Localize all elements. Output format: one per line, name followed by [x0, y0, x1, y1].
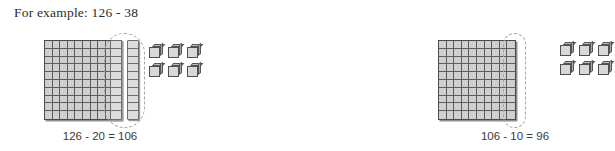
flat-unit-cell: [462, 103, 470, 111]
flat-unit-cell: [75, 103, 83, 111]
flat-unit-cell: [83, 96, 91, 104]
flat-unit-cell: [492, 88, 500, 96]
flat-unit-cell: [477, 111, 485, 119]
flat-unit-cell: [477, 103, 485, 111]
flat-unit-cell: [60, 80, 68, 88]
flat-unit-cell: [469, 111, 477, 119]
flat-unit-cell: [469, 80, 477, 88]
flat-unit-cell: [60, 57, 68, 65]
flat-unit-cell: [53, 72, 61, 80]
flat-unit-cell: [454, 103, 462, 111]
flat-unit-cell: [75, 49, 83, 57]
flat-unit-cell: [447, 111, 455, 119]
flat-unit-cell: [447, 103, 455, 111]
unit-cube: [187, 44, 201, 58]
unit-cube-face: [560, 64, 571, 75]
flat-unit-cell: [45, 64, 53, 72]
dashed-circle-column: [503, 33, 526, 128]
flat-unit-cell: [91, 57, 99, 65]
step-caption: 106 - 10 = 96: [415, 130, 615, 142]
flat-unit-cell: [485, 88, 493, 96]
unit-cube-face: [560, 45, 571, 56]
flat-unit-cell: [83, 41, 91, 49]
flat-unit-cell: [447, 49, 455, 57]
flat-unit-cell: [454, 96, 462, 104]
flat-unit-cell: [485, 57, 493, 65]
flat-unit-cell: [68, 88, 76, 96]
flat-unit-cell: [60, 49, 68, 57]
flat-unit-cell: [477, 96, 485, 104]
flat-unit-cell: [477, 88, 485, 96]
flat-unit-cell: [91, 80, 99, 88]
flat-unit-cell: [60, 88, 68, 96]
flat-unit-cell: [60, 64, 68, 72]
flat-unit-cell: [91, 49, 99, 57]
flat-unit-cell: [60, 111, 68, 119]
flat-unit-cell: [439, 103, 447, 111]
flat-unit-cell: [439, 57, 447, 65]
unit-cube: [168, 63, 182, 77]
flat-unit-cell: [83, 80, 91, 88]
flat-unit-cell: [75, 72, 83, 80]
flat-unit-cell: [60, 72, 68, 80]
flat-unit-cell: [447, 80, 455, 88]
flat-unit-cell: [60, 96, 68, 104]
flat-unit-cell: [75, 96, 83, 104]
flat-unit-cell: [75, 41, 83, 49]
flat-unit-cell: [60, 103, 68, 111]
flat-unit-cell: [75, 57, 83, 65]
flat-unit-cell: [83, 88, 91, 96]
flat-unit-cell: [447, 88, 455, 96]
flat-unit-cell: [469, 49, 477, 57]
unit-cube-side: [179, 43, 182, 56]
flat-unit-cell: [83, 57, 91, 65]
unit-cube-side: [160, 43, 163, 56]
flat-unit-cell: [477, 72, 485, 80]
unit-cube-face: [187, 66, 198, 77]
flat-unit-cell: [469, 57, 477, 65]
flat-unit-cell: [45, 111, 53, 119]
flat-unit-cell: [439, 72, 447, 80]
flat-unit-cell: [447, 72, 455, 80]
flat-unit-cell: [462, 57, 470, 65]
unit-cube-side: [590, 41, 593, 54]
flat-unit-cell: [68, 72, 76, 80]
flat-unit-cell: [454, 88, 462, 96]
flat-unit-cell: [68, 80, 76, 88]
flat-unit-cell: [53, 41, 61, 49]
flat-unit-cell: [45, 57, 53, 65]
flat-unit-cell: [45, 49, 53, 57]
flat-unit-cell: [454, 72, 462, 80]
unit-cube: [579, 42, 593, 56]
flat-unit-cell: [68, 103, 76, 111]
flat-unit-cell: [454, 41, 462, 49]
flat-unit-cell: [462, 72, 470, 80]
flat-unit-cell: [462, 111, 470, 119]
unit-cube: [149, 44, 163, 58]
flat-unit-cell: [439, 80, 447, 88]
flat-unit-cell: [439, 41, 447, 49]
flat-unit-cell: [492, 57, 500, 65]
flat-unit-cell: [91, 96, 99, 104]
unit-cube-side: [179, 62, 182, 75]
flat-unit-cell: [45, 80, 53, 88]
flat-unit-cell: [462, 49, 470, 57]
flat-unit-cell: [45, 72, 53, 80]
flat-unit-cell: [469, 88, 477, 96]
flat-unit-cell: [492, 96, 500, 104]
flat-unit-cell: [53, 80, 61, 88]
flat-unit-cell: [83, 72, 91, 80]
flat-unit-cell: [469, 72, 477, 80]
flat-unit-cell: [447, 57, 455, 65]
flat-unit-cell: [53, 64, 61, 72]
flat-unit-cell: [53, 111, 61, 119]
flat-unit-cell: [454, 80, 462, 88]
flat-unit-cell: [469, 64, 477, 72]
flat-unit-cell: [462, 96, 470, 104]
unit-cube-face: [168, 66, 179, 77]
flat-unit-cell: [91, 88, 99, 96]
flat-unit-cell: [462, 64, 470, 72]
flat-unit-cell: [477, 49, 485, 57]
flat-unit-cell: [68, 96, 76, 104]
unit-cube-side: [609, 60, 612, 73]
